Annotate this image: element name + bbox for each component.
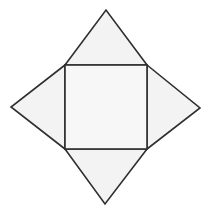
square-base-face: [65, 65, 147, 149]
pyramid-net-diagram: [0, 0, 209, 221]
